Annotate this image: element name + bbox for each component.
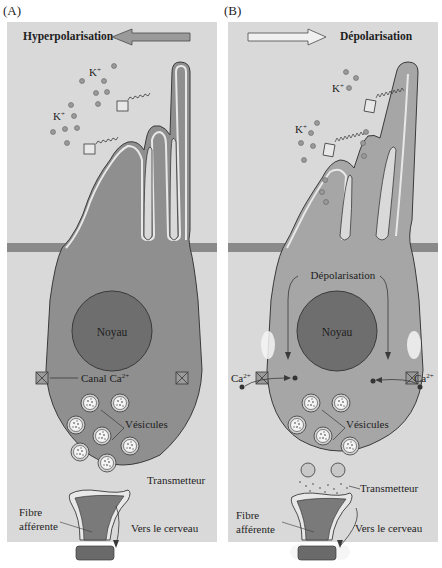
panel-a-calcium-channel-left bbox=[36, 372, 48, 384]
panel-a: Hyperpolarisation K+ K+ bbox=[7, 22, 217, 560]
panel-b-vesicles-label: Vésicules bbox=[346, 418, 389, 430]
panel-a-fiber-label-2: afférente bbox=[19, 520, 58, 532]
panel-a-nucleus-label: Noyau bbox=[97, 326, 128, 339]
panel-b-fiber-label-2: afférente bbox=[236, 523, 275, 535]
panel-a-vesicles-label: Vésicules bbox=[125, 418, 168, 430]
panel-a-calcium-channel-right bbox=[176, 372, 188, 384]
panel-b-depolarisation-label: Dépolarisation bbox=[311, 269, 376, 281]
panel-b-calcium-channel-left bbox=[256, 372, 268, 384]
panel-b-title: Dépolarisation bbox=[340, 30, 413, 43]
panel-b-brain-label: Vers le cerveau bbox=[355, 522, 423, 534]
panel-b-nucleus-label: Noyau bbox=[322, 326, 353, 339]
panel-b-transmitter-label: Transmetteur bbox=[360, 482, 419, 494]
panel-a-fiber-label: Fibre bbox=[19, 506, 42, 518]
panel-a-transmitter-label: Transmetteur bbox=[147, 474, 206, 486]
hair-cell-diagram: Hyperpolarisation K+ K+ bbox=[0, 0, 442, 568]
panel-a-brain-label: Vers le cerveau bbox=[131, 522, 199, 534]
panel-a-title: Hyperpolarisation bbox=[23, 30, 114, 43]
panel-b-fiber-label: Fibre bbox=[236, 509, 259, 521]
panel-b: Dépolarisation K+ K+ Dépolarisation bbox=[228, 22, 438, 560]
